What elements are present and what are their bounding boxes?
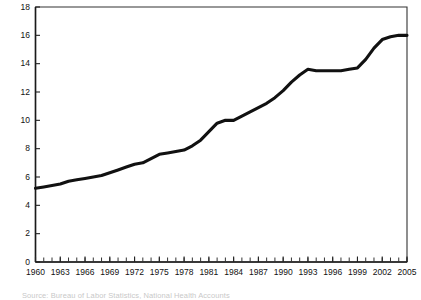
y-tick-label: 2 [25,228,30,238]
x-tick-label: 1996 [323,267,342,277]
x-tick-label: 1984 [224,267,243,277]
x-tick-label: 1978 [175,267,194,277]
y-tick-label: 18 [21,2,31,12]
x-tick-label: 1963 [51,267,70,277]
y-tick-label: 8 [25,143,30,153]
y-tick-label: 16 [21,30,31,40]
y-tick-label: 6 [25,172,30,182]
x-tick-label: 1993 [298,267,317,277]
x-tick-label: 1972 [125,267,144,277]
y-tick-label: 12 [21,87,31,97]
y-tick-label: 10 [21,115,31,125]
x-tick-label: 1999 [348,267,367,277]
x-tick-label: 1987 [249,267,268,277]
x-tick-label: 1990 [274,267,293,277]
data-series-layer [36,35,408,188]
x-tick-label: 1969 [100,267,119,277]
x-tick-label: 1975 [150,267,169,277]
x-tick-label: 2002 [373,267,392,277]
y-tick-label: 14 [21,58,31,68]
source-caption: Source: Bureau of Labor Statistics, Nati… [22,291,230,300]
y-axis-tick-labels: 024681012141618 [21,2,31,267]
plot-frame [36,7,408,262]
y-tick-label: 0 [25,257,30,267]
x-axis-ticks [36,257,408,263]
x-tick-label: 1960 [26,267,45,277]
data-line-1 [36,35,408,188]
x-tick-label: 1981 [199,267,218,277]
y-tick-label: 4 [25,200,30,210]
x-axis-tick-labels: 1960196319661969197219751978198119841987… [26,267,417,277]
x-tick-label: 2005 [398,267,417,277]
x-tick-label: 1966 [76,267,95,277]
